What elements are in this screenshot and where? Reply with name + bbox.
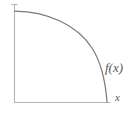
x-axis-label: x — [115, 92, 120, 103]
plot-canvas — [0, 0, 134, 116]
function-label: f(x) — [105, 61, 123, 74]
function-curve — [15, 11, 108, 102]
function-plot-figure: f(x) x — [0, 0, 134, 116]
